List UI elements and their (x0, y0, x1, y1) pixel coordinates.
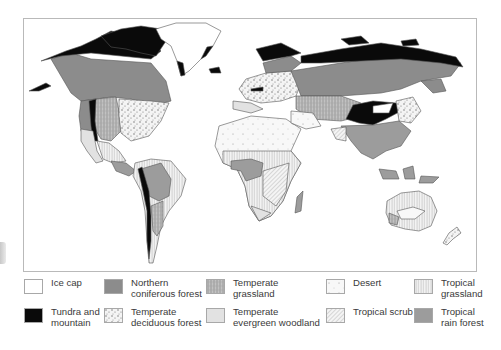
tundra-mountain-swatch (24, 308, 43, 323)
legend-label: Temperate evergreen woodland (233, 307, 320, 328)
temperate-evergreen-woodland-swatch (206, 308, 225, 323)
legend-item-temperate-evergreen-woodland: Temperate evergreen woodland (206, 307, 320, 328)
temperate-grassland-swatch (206, 279, 225, 294)
legend-label: Temperate grassland (233, 278, 278, 299)
map-canvas (24, 19, 477, 272)
legend-item-desert: Desert (326, 278, 381, 294)
legend-item-temperate-deciduous-forest: Temperate deciduous forest (104, 307, 201, 328)
legend-label: Tropical rain forest (441, 307, 484, 328)
legend-item-temperate-grassland: Temperate grassland (206, 278, 278, 299)
legend-item-northern-coniferous-forest: Northern coniferous forest (104, 278, 202, 299)
legend-item-tropical-grassland: Tropical grassland (414, 278, 483, 299)
tropical-scrub-swatch (326, 308, 345, 323)
legend-item-ice-cap: Ice cap (24, 278, 82, 294)
legend-label: Temperate deciduous forest (131, 307, 201, 328)
temperate-deciduous-forest-swatch (104, 308, 123, 323)
legend-label: Tundra and mountain (51, 307, 100, 328)
ice-cap-swatch (24, 279, 43, 294)
legend-item-tropical-rain-forest: Tropical rain forest (414, 307, 484, 328)
tropical-rain-forest-swatch (414, 308, 433, 323)
legend-label: Northern coniferous forest (131, 278, 202, 299)
page-edge-artifact (0, 242, 6, 264)
legend-label: Tropical scrub (353, 307, 413, 318)
northern-coniferous-forest-swatch (104, 279, 123, 294)
tropical-grassland-swatch (414, 279, 433, 294)
legend-label: Desert (353, 278, 381, 289)
world-biome-map (23, 18, 477, 272)
legend-label: Tropical grassland (441, 278, 483, 299)
legend-label: Ice cap (51, 278, 82, 289)
desert-swatch (326, 279, 345, 294)
legend-item-tundra-mountain: Tundra and mountain (24, 307, 100, 328)
map-legend: Ice cap Northern coniferous forest Tempe… (24, 278, 500, 348)
legend-item-tropical-scrub: Tropical scrub (326, 307, 413, 323)
